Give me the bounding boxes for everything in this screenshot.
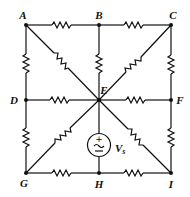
resistor-D-G (23, 100, 29, 173)
resistor-H-I (99, 170, 171, 176)
resistor-G-E (26, 100, 99, 173)
circuit-svg: + Vs A B C D E F G H I (0, 0, 190, 197)
label-D: D (9, 94, 18, 106)
label-A: A (18, 9, 26, 21)
label-E: E (99, 84, 107, 96)
node-A (24, 23, 28, 27)
label-B: B (94, 9, 102, 21)
node-I (169, 171, 173, 175)
label-I: I (168, 178, 174, 190)
source-label: Vs (115, 142, 125, 156)
resistor-C-E (99, 25, 171, 100)
resistor-D-E (26, 97, 99, 103)
label-G: G (20, 177, 28, 189)
resistor-A-B (26, 22, 99, 28)
node-C (169, 23, 173, 27)
resistor-B-C (99, 22, 171, 28)
node-H (97, 171, 101, 175)
label-F: F (175, 94, 184, 106)
resistor-E-F (99, 97, 171, 103)
label-H: H (94, 178, 104, 190)
resistor-C-F (168, 25, 174, 100)
resistor-I-E (99, 100, 171, 173)
resistor-A-D (23, 25, 29, 100)
node-G (24, 171, 28, 175)
resistor-F-I (168, 100, 174, 173)
circuit-diagram: + Vs A B C D E F G H I (0, 0, 190, 197)
resistor-G-H (26, 170, 99, 176)
node-D (24, 98, 28, 102)
ac-voltage-source: + Vs (88, 100, 126, 173)
plus-sign: + (95, 134, 103, 144)
resistor-A-E (26, 25, 99, 100)
node-B (97, 23, 101, 27)
node-E (97, 98, 101, 102)
node-F (169, 98, 173, 102)
label-C: C (169, 9, 177, 21)
